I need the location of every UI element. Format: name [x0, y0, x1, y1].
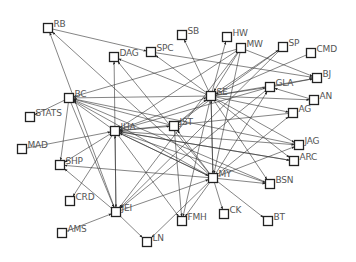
node-square-icon[interactable]: [58, 229, 67, 238]
node-square-icon[interactable]: [237, 44, 246, 53]
node-sp[interactable]: SP: [279, 38, 301, 52]
edge-my-to-gla: [213, 92, 267, 179]
node-square-icon[interactable]: [111, 127, 120, 136]
node-arc[interactable]: ARC: [290, 152, 318, 166]
edge-se-to-dag: [119, 59, 212, 96]
node-square-icon[interactable]: [266, 83, 275, 92]
node-jei[interactable]: JEI: [112, 203, 132, 217]
node-ag[interactable]: AG: [289, 104, 312, 118]
node-hw[interactable]: HW: [223, 28, 249, 42]
node-square-icon[interactable]: [26, 113, 35, 122]
edge-my-to-ln: [152, 178, 214, 238]
edge-spc-to-bj: [151, 52, 313, 77]
edge-jst-to-fmh: [174, 126, 182, 217]
node-label: MAD: [28, 140, 49, 150]
node-ck[interactable]: CK: [220, 205, 243, 219]
node-square-icon[interactable]: [295, 141, 304, 150]
node-gla[interactable]: GLA: [266, 78, 295, 92]
node-label: SE: [217, 87, 229, 97]
node-label: SP: [289, 38, 301, 48]
node-square-icon[interactable]: [264, 217, 273, 226]
node-square-icon[interactable]: [220, 210, 229, 219]
node-label: BC: [75, 89, 87, 99]
node-label: DAG: [120, 48, 139, 58]
node-label: SB: [188, 26, 200, 36]
node-square-icon[interactable]: [290, 157, 299, 166]
node-label: BSN: [276, 175, 294, 185]
node-rb[interactable]: RB: [44, 19, 66, 33]
node-spc[interactable]: SPC: [147, 43, 174, 57]
node-label: JAG: [304, 136, 320, 146]
node-ams[interactable]: AMS: [58, 224, 88, 238]
node-label: AN: [320, 91, 333, 101]
node-dag[interactable]: DAG: [110, 48, 139, 62]
edge-my-to-fmh: [185, 178, 213, 217]
edge-mw-to-jei: [119, 48, 241, 208]
node-label: BJ: [323, 69, 331, 79]
node-label: STATS: [36, 108, 63, 118]
node-square-icon[interactable]: [56, 161, 65, 170]
node-square-icon[interactable]: [112, 208, 121, 217]
node-square-icon[interactable]: [66, 197, 75, 206]
node-shp[interactable]: SHP: [56, 156, 84, 170]
node-label: BT: [274, 212, 286, 222]
node-square-icon[interactable]: [178, 217, 187, 226]
node-bt[interactable]: BT: [264, 212, 286, 226]
node-cmd[interactable]: CMD: [307, 44, 338, 58]
node-jag[interactable]: JAG: [295, 136, 320, 150]
node-label: CRD: [76, 192, 95, 202]
node-square-icon[interactable]: [223, 33, 232, 42]
node-label: MY: [219, 169, 233, 179]
node-fmh[interactable]: FMH: [178, 212, 207, 226]
node-my[interactable]: MY: [209, 169, 233, 183]
edge-my-to-se: [211, 101, 213, 179]
edge-bc-to-shp: [61, 98, 69, 161]
node-label: GLA: [276, 78, 295, 88]
node-square-icon[interactable]: [147, 48, 156, 57]
node-stats[interactable]: STATS: [26, 108, 63, 122]
node-label: ARC: [300, 152, 318, 162]
edge-se-to-sb: [184, 40, 211, 97]
node-square-icon[interactable]: [170, 122, 179, 131]
node-label: FMH: [188, 212, 207, 222]
node-label: MW: [247, 39, 264, 49]
node-label: CK: [230, 205, 243, 215]
node-square-icon[interactable]: [289, 109, 298, 118]
node-mw[interactable]: MW: [237, 39, 264, 53]
node-square-icon[interactable]: [18, 145, 27, 154]
edge-sp-to-jei: [121, 47, 284, 208]
node-square-icon[interactable]: [266, 180, 275, 189]
node-label: HW: [233, 28, 249, 38]
node-label: SHP: [66, 156, 84, 166]
edge-iha-to-dag: [114, 62, 115, 132]
edge-an-to-gla: [275, 88, 315, 100]
node-label: RB: [54, 19, 66, 29]
network-diagram: RBSBHWMWSPCMDDAGSPCBJSEGLAANBCAGSTATSIHA…: [0, 0, 356, 262]
node-bsn[interactable]: BSN: [266, 175, 294, 189]
node-square-icon[interactable]: [65, 94, 74, 103]
node-label: JEI: [121, 203, 132, 213]
node-square-icon[interactable]: [307, 49, 316, 58]
node-square-icon[interactable]: [143, 238, 152, 247]
node-square-icon[interactable]: [207, 92, 216, 101]
node-square-icon[interactable]: [209, 174, 218, 183]
node-square-icon[interactable]: [44, 24, 53, 33]
node-ln[interactable]: LN: [143, 233, 164, 247]
node-mad[interactable]: MAD: [18, 140, 49, 154]
node-square-icon[interactable]: [110, 53, 119, 62]
node-label: CMD: [317, 44, 338, 54]
node-bj[interactable]: BJ: [313, 69, 331, 83]
node-crd[interactable]: CRD: [66, 192, 95, 206]
edge-iha-to-bc: [74, 101, 116, 131]
node-label: LN: [153, 233, 164, 243]
node-label: SPC: [157, 43, 174, 53]
node-label: AG: [299, 104, 312, 114]
node-sb[interactable]: SB: [178, 26, 200, 40]
edge-iha-to-jag: [115, 131, 295, 145]
node-label: JST: [179, 117, 194, 127]
node-square-icon[interactable]: [313, 74, 322, 83]
node-label: IHA: [121, 122, 137, 132]
node-square-icon[interactable]: [178, 31, 187, 40]
node-an[interactable]: AN: [310, 91, 333, 105]
node-square-icon[interactable]: [279, 43, 288, 52]
